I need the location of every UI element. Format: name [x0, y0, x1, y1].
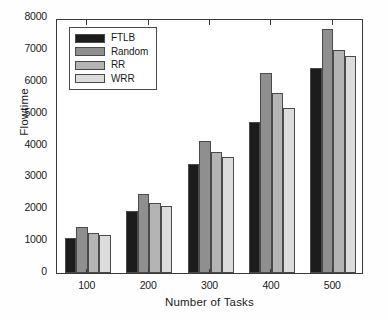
bar-rr-500	[333, 50, 345, 273]
legend-swatch-wrr	[75, 74, 105, 83]
y-axis-tick-label: 2000	[24, 202, 47, 212]
x-axis-tick-mark-top	[332, 19, 333, 25]
legend-swatch-random	[75, 47, 105, 56]
x-axis-tick-mark-top	[86, 19, 87, 25]
legend-label-ftlb: FTLB	[111, 33, 135, 43]
y-axis-tick-label: 3000	[24, 170, 47, 180]
legend-label-rr: RR	[111, 60, 125, 70]
legend-swatch-rr	[75, 61, 105, 70]
x-axis-tick-label: 500	[310, 279, 354, 291]
legend-item-rr: RR	[75, 59, 152, 72]
x-axis-tick-mark	[332, 269, 333, 274]
x-axis-tick-label: 200	[126, 279, 170, 291]
legend-label-random: Random	[111, 47, 148, 57]
bar-random-500	[322, 29, 334, 273]
y-axis-tick-label: 4000	[24, 139, 47, 149]
x-axis-tick-label: 100	[65, 279, 109, 291]
bar-chart-figure: Flowtime 0100020003000400050006000700080…	[0, 0, 388, 320]
x-axis-tick-mark-top	[270, 19, 271, 25]
y-axis-tick-label: 1000	[24, 234, 47, 244]
y-axis-tick-label: 5000	[24, 107, 47, 117]
x-axis-tick-label: 300	[188, 279, 232, 291]
legend-swatch-ftlb	[75, 34, 105, 43]
legend-item-ftlb: FTLB	[75, 32, 152, 45]
x-axis-tick-mark	[86, 269, 87, 274]
y-axis-tick-label: 8000	[24, 11, 47, 21]
x-axis-tick-mark	[270, 269, 271, 274]
bar-wrr-500	[345, 56, 357, 273]
x-axis-tick-mark-top	[148, 19, 149, 25]
legend-item-wrr: WRR	[75, 73, 152, 86]
x-axis-tick-mark-top	[209, 19, 210, 25]
legend: FTLBRandomRRWRR	[69, 27, 157, 90]
x-axis-label: Number of Tasks	[56, 296, 363, 308]
y-axis-tick-label: 6000	[24, 75, 47, 85]
bar-ftlb-500	[310, 68, 322, 273]
legend-item-random: Random	[75, 46, 152, 59]
x-axis-tick-mark	[209, 269, 210, 274]
legend-label-wrr: WRR	[111, 74, 135, 84]
y-axis-tick-label: 0	[41, 266, 47, 276]
x-axis-tick-label: 400	[249, 279, 293, 291]
x-axis-tick-mark	[148, 269, 149, 274]
y-axis-tick-label: 7000	[24, 43, 47, 53]
